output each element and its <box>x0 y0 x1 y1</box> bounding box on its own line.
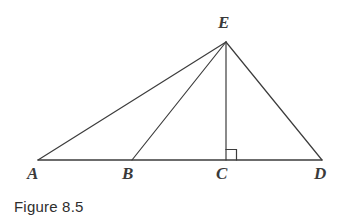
vertex-label-d: D <box>314 165 326 182</box>
right-angle-marker-icon <box>226 150 237 161</box>
vertex-label-c: C <box>216 165 227 182</box>
vertex-label-b: B <box>122 165 133 182</box>
geometry-diagram <box>0 0 360 221</box>
figure-caption: Figure 8.5 <box>14 199 84 214</box>
segment-be <box>132 42 226 160</box>
vertex-label-a: A <box>27 165 38 182</box>
vertex-label-e: E <box>218 14 229 31</box>
segment-de <box>226 42 322 160</box>
segment-ae <box>38 42 226 160</box>
figure-container: A B C D E Figure 8.5 <box>0 0 360 221</box>
